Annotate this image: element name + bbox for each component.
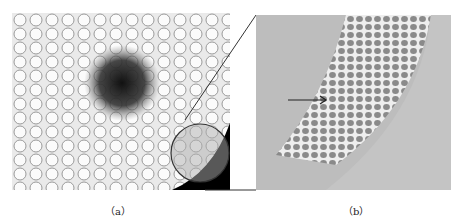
caption-b: （b）: [343, 203, 369, 218]
caption-a: （a）: [105, 203, 131, 218]
micrograph-panel-b: [256, 15, 451, 190]
